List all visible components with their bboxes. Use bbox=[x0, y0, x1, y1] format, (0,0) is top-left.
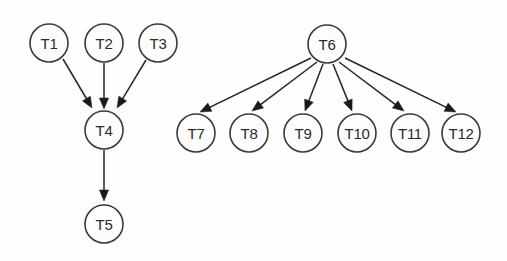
node-label: T10 bbox=[345, 125, 370, 142]
node-label: T9 bbox=[295, 125, 312, 142]
node-t4[interactable]: T4 bbox=[85, 111, 123, 149]
arrowhead-icon bbox=[392, 101, 404, 111]
arrowhead-icon bbox=[117, 96, 127, 108]
node-label: T1 bbox=[41, 35, 58, 52]
edge-line bbox=[345, 58, 448, 108]
node-label: T6 bbox=[319, 36, 336, 53]
edge-line bbox=[122, 60, 146, 100]
edge-line bbox=[333, 64, 349, 103]
diagram-canvas: T1T2T3T4T5T6T7T8T9T10T11T12 bbox=[0, 0, 507, 261]
arrowhead-icon bbox=[99, 190, 108, 201]
arrowhead-icon bbox=[305, 99, 314, 111]
node-t9[interactable]: T9 bbox=[284, 114, 322, 152]
node-label: T8 bbox=[241, 125, 258, 142]
edge-line bbox=[63, 59, 87, 100]
node-label: T11 bbox=[398, 125, 422, 142]
edge-t6-to-t7 bbox=[200, 58, 311, 112]
arrowhead-icon bbox=[444, 103, 456, 112]
edge-t1-to-t4 bbox=[63, 59, 92, 108]
edge-line bbox=[308, 64, 323, 103]
node-label: T3 bbox=[150, 35, 167, 52]
arrowhead-icon bbox=[99, 98, 108, 109]
edge-line bbox=[208, 58, 311, 108]
node-t7[interactable]: T7 bbox=[177, 114, 215, 152]
node-t5[interactable]: T5 bbox=[85, 205, 123, 243]
node-t8[interactable]: T8 bbox=[230, 114, 268, 152]
arrowhead-icon bbox=[200, 103, 212, 112]
node-layer: T1T2T3T4T5T6T7T8T9T10T11T12 bbox=[30, 24, 480, 243]
node-t2[interactable]: T2 bbox=[85, 24, 123, 62]
node-t11[interactable]: T11 bbox=[391, 114, 429, 152]
node-label: T7 bbox=[188, 125, 205, 142]
node-t3[interactable]: T3 bbox=[139, 24, 177, 62]
node-t6[interactable]: T6 bbox=[308, 25, 346, 63]
node-label: T5 bbox=[96, 216, 113, 233]
arrowhead-icon bbox=[82, 96, 92, 108]
edge-t4-to-t5 bbox=[99, 150, 108, 201]
node-t1[interactable]: T1 bbox=[30, 24, 68, 62]
node-t10[interactable]: T10 bbox=[338, 114, 376, 152]
arrowhead-icon bbox=[252, 101, 264, 111]
node-label: T12 bbox=[449, 125, 474, 142]
node-label: T4 bbox=[96, 122, 113, 139]
edge-t6-to-t12 bbox=[345, 58, 456, 112]
edge-t3-to-t4 bbox=[117, 60, 146, 108]
edge-t6-to-t10 bbox=[333, 64, 352, 111]
node-t12[interactable]: T12 bbox=[442, 114, 480, 152]
edge-t6-to-t9 bbox=[305, 64, 323, 111]
edge-t2-to-t4 bbox=[99, 63, 108, 109]
node-label: T2 bbox=[96, 35, 113, 52]
task-dependency-diagram: T1T2T3T4T5T6T7T8T9T10T11T12 bbox=[0, 0, 507, 261]
arrowhead-icon bbox=[344, 99, 353, 111]
